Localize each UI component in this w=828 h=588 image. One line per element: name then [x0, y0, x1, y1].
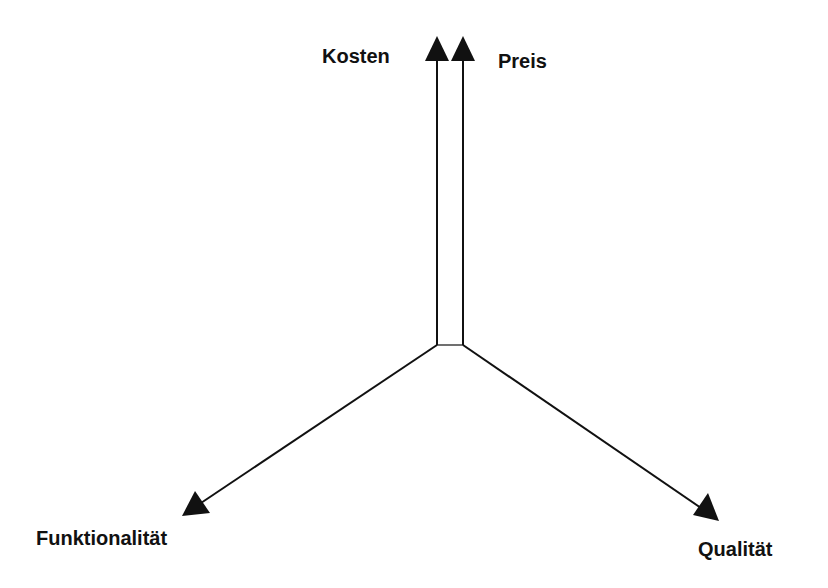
- kosten-label: Kosten: [322, 45, 390, 68]
- preis-arrowhead-icon: [451, 36, 475, 61]
- preis-label: Preis: [498, 50, 547, 73]
- qualitaet-arrowhead-icon: [693, 493, 719, 521]
- qualitaet-label: Qualität: [698, 538, 772, 561]
- funktionalitaet-arrowhead-icon: [182, 491, 210, 516]
- qualitaet-axis-line: [463, 345, 704, 510]
- axis-diagram: [0, 0, 828, 588]
- kosten-arrowhead-icon: [425, 36, 449, 61]
- funktionalitaet-axis-line: [198, 345, 437, 505]
- funktionalitaet-label: Funktionalität: [36, 527, 167, 550]
